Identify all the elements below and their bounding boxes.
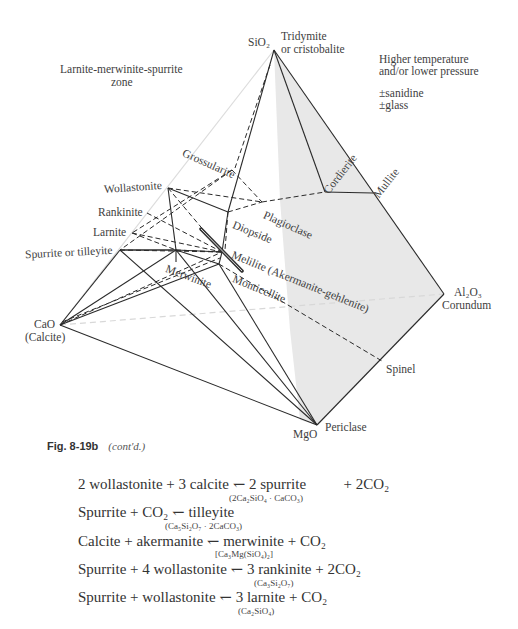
reaction-2-formula: (Ca₅Si₂O₇ · 2CaCO₃) [165,521,242,531]
conditions-label-2: and/or lower pressure [379,65,479,78]
glass-label: ±glass [379,99,408,112]
reaction-1-formula: (2Ca₂SiO₄ · CaCO₃) [229,493,303,503]
calcite-label: (Calcite) [25,331,65,344]
reaction-3-formula: [Ca₃Mg(SiO₄)₂] [215,549,273,559]
cao-label: CaO [34,318,55,331]
reaction-5: Spurrite + wollastonite ↽ 3 larnite + CO… [78,588,327,606]
reaction-2: Spurrite + CO₂ ↽ tilleyite [78,503,234,521]
figure-number: Fig. 8-19b [47,440,98,452]
sio2-label: SiO₂ [248,36,270,49]
mgo-label: MgO [293,428,317,441]
rankinite-label: Rankinite [98,206,143,219]
corundum-label: Corundum [442,299,491,312]
zone-label-2: zone [111,76,133,89]
al2o3-label: Al₂O₃ [454,286,482,299]
larnite-label: Larnite [93,226,126,239]
reaction-5-formula: (Ca₂SiO₄) [238,606,274,616]
reaction-4-formula: (Ca₃Si₂O₇) [254,578,293,588]
reaction-3: Calcite + akermanite ↽ merwinite + CO₂ [78,532,326,550]
figure-note: (cont'd.) [108,440,145,452]
periclase-label: Periclase [325,421,367,434]
tridymite-label: Tridymite [281,30,327,43]
reaction-4: Spurrite + 4 wollastonite ↽ 3 rankinite … [78,560,361,578]
reaction-1: 2 wollastonite + 3 calcite ↽ 2 spurrite … [78,475,389,493]
figure-caption: Fig. 8-19b(cont'd.) [47,440,145,452]
zone-label: Larnite-merwinite-spurrite [60,63,183,76]
spinel-label: Spinel [386,363,415,376]
cristobalite-label: or cristobalite [281,43,345,56]
